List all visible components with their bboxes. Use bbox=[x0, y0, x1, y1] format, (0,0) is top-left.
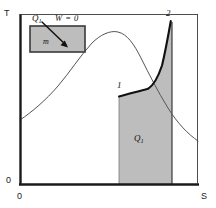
heat-area-label: Q1 bbox=[134, 134, 144, 144]
y-axis-origin-label: 0 bbox=[6, 176, 11, 185]
inset-heat-label: Q1 bbox=[32, 14, 42, 24]
inset-mass-label: m bbox=[43, 38, 49, 46]
inset-work-label: W = 0 bbox=[55, 14, 79, 23]
inset-heat-label-subscript: 1 bbox=[39, 17, 42, 24]
state-point-2-label: 2 bbox=[166, 9, 171, 18]
inset-system-box bbox=[30, 26, 85, 52]
x-axis-label: S bbox=[201, 192, 207, 201]
ts-diagram-figure: T 0 0 S 1 2 Q1 Q1 W = 0 m bbox=[0, 0, 216, 208]
heat-area-label-subscript: 1 bbox=[141, 137, 144, 144]
state-point-1-label: 1 bbox=[117, 81, 122, 90]
y-axis-label: T bbox=[4, 9, 10, 18]
x-axis-origin-label: 0 bbox=[17, 192, 22, 201]
ts-diagram-canvas bbox=[0, 0, 216, 208]
